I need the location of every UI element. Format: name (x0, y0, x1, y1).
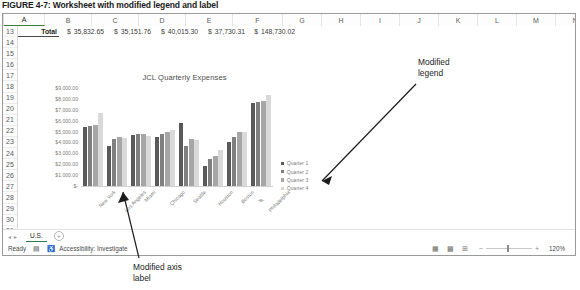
bar[interactable] (242, 132, 247, 186)
x-axis-label[interactable]: Houston (217, 189, 235, 207)
sheet-tab-bar[interactable]: ◂ ▸ U.S. + (3, 229, 575, 242)
row-header-column[interactable]: 13141516171819202122232425262728293031 (3, 26, 18, 229)
table-row[interactable]: Total $ 35,832.65 $ 35,151.76 $ 40,015.3… (18, 26, 575, 37)
plus-circle-icon[interactable]: + (54, 231, 64, 241)
column-header-f[interactable]: F (233, 14, 283, 26)
bar[interactable] (266, 95, 271, 186)
column-headers[interactable]: ABCDEFGHIJKLMN (4, 14, 576, 25)
bar[interactable] (213, 156, 218, 186)
bar[interactable] (112, 139, 117, 186)
zoom-level-label[interactable]: 120% (549, 245, 569, 252)
bar[interactable] (189, 139, 194, 186)
bar[interactable] (261, 101, 266, 186)
legend-item[interactable]: Quarter 4 (281, 184, 329, 192)
column-header-i[interactable]: I (361, 14, 400, 26)
cell-e13[interactable]: $ 37,730.31 (200, 26, 247, 37)
row-header-18[interactable]: 18 (3, 81, 17, 92)
plus-icon[interactable]: + (535, 245, 539, 252)
bar[interactable] (256, 102, 261, 186)
bar[interactable] (83, 127, 88, 186)
bar[interactable] (218, 150, 223, 186)
x-axis-label[interactable]: Chicago (168, 189, 185, 206)
page-layout-icon[interactable]: ▩ (447, 244, 454, 253)
normal-view-icon[interactable]: ▦ (432, 244, 439, 253)
bar[interactable] (155, 137, 160, 186)
select-all-corner[interactable] (3, 14, 4, 26)
column-header-d[interactable]: D (139, 14, 186, 26)
column-header-l[interactable]: L (478, 14, 517, 26)
bar[interactable] (146, 136, 151, 186)
column-header-a[interactable]: A (4, 14, 45, 26)
x-axis-label[interactable]: New York (97, 189, 116, 208)
minus-icon[interactable]: − (479, 245, 483, 252)
column-header-g[interactable]: G (283, 14, 322, 26)
column-header-row[interactable]: ABCDEFGHIJKLMN (3, 14, 575, 26)
bar[interactable] (93, 125, 98, 186)
row-header-20[interactable]: 20 (3, 104, 17, 115)
bar-group[interactable] (107, 88, 128, 186)
column-header-j[interactable]: J (400, 14, 439, 26)
column-header-m[interactable]: M (517, 14, 556, 26)
row-header-24[interactable]: 24 (3, 148, 17, 159)
chart-plot-area[interactable] (81, 88, 273, 186)
bar[interactable] (117, 137, 122, 186)
row-header-30[interactable]: 30 (3, 215, 17, 226)
chart-legend[interactable]: Quarter 1Quarter 2Quarter 3Quarter 4 (281, 159, 329, 193)
chart-title[interactable]: JCL Quarterly Expenses (36, 73, 333, 82)
bar[interactable] (251, 103, 256, 186)
bar-group[interactable] (155, 88, 176, 186)
row-header-23[interactable]: 23 (3, 137, 17, 148)
legend-item[interactable]: Quarter 3 (281, 176, 329, 184)
row-header-13[interactable]: 13 (3, 26, 17, 37)
bar[interactable] (237, 132, 242, 186)
row-header-27[interactable]: 27 (3, 181, 17, 192)
zoom-slider[interactable]: − + (476, 245, 542, 252)
x-axis-label[interactable]: Seattle (192, 189, 207, 204)
bar-group[interactable] (227, 88, 248, 186)
row-header-25[interactable]: 25 (3, 159, 17, 170)
legend-item[interactable]: Quarter 2 (281, 167, 329, 175)
bar[interactable] (227, 142, 232, 186)
row-header-16[interactable]: 16 (3, 59, 17, 70)
bar[interactable] (131, 135, 136, 186)
column-header-c[interactable]: C (92, 14, 139, 26)
row-header-22[interactable]: 22 (3, 126, 17, 137)
bar[interactable] (88, 126, 93, 186)
record-macro-icon[interactable]: ▤ (33, 245, 40, 253)
sheet-nav-arrows[interactable]: ◂ ▸ (8, 233, 20, 240)
cell-c13[interactable]: $ 35,151.76 (106, 26, 153, 37)
legend-item[interactable]: Quarter 1 (281, 159, 329, 167)
row-header-26[interactable]: 26 (3, 170, 17, 181)
column-header-n[interactable]: N (556, 14, 576, 26)
bar[interactable] (160, 134, 165, 186)
row-header-17[interactable]: 17 (3, 70, 17, 81)
zoom-slider-handle[interactable] (507, 245, 509, 252)
horizontal-scroll-marker[interactable]: ◂▸ (258, 198, 266, 202)
bar[interactable] (170, 130, 175, 186)
bar[interactable] (107, 146, 112, 186)
bar[interactable] (203, 166, 208, 186)
cell-b13[interactable]: $ 35,832.65 (59, 26, 106, 37)
sheet-tab-us[interactable]: U.S. (26, 230, 47, 242)
zoom-slider-track[interactable] (486, 248, 532, 249)
cell-d13[interactable]: $ 40,015.30 (153, 26, 200, 37)
column-header-b[interactable]: B (45, 14, 92, 26)
column-header-k[interactable]: K (439, 14, 478, 26)
row-header-19[interactable]: 19 (3, 93, 17, 104)
worksheet-grid[interactable]: Total $ 35,832.65 $ 35,151.76 $ 40,015.3… (18, 26, 575, 229)
column-header-e[interactable]: E (186, 14, 233, 26)
row-header-28[interactable]: 28 (3, 192, 17, 203)
bar[interactable] (141, 134, 146, 186)
bar[interactable] (184, 146, 189, 186)
x-axis-label[interactable]: Philadelphia (267, 189, 291, 213)
row-header-21[interactable]: 21 (3, 115, 17, 126)
bar[interactable] (232, 137, 237, 186)
chevron-left-icon[interactable]: ◂ (8, 233, 11, 240)
cell-f13[interactable]: $ 148,730.02 (247, 26, 297, 37)
bar[interactable] (208, 159, 213, 186)
chart-object[interactable]: JCL Quarterly Expenses $9,000.00$8,000.0… (36, 71, 333, 223)
bar-group[interactable] (131, 88, 152, 186)
bar[interactable] (165, 132, 170, 186)
chevron-right-icon[interactable]: ▸ (14, 233, 17, 240)
bar[interactable] (136, 134, 141, 186)
